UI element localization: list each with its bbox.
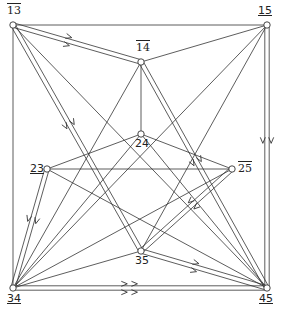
node-label-34: 34 [7, 293, 21, 304]
node-25 [229, 166, 235, 172]
node-14 [138, 59, 144, 65]
node-label-15: 15 [258, 5, 272, 16]
double-edge-25-35 [142, 171, 233, 253]
node-label-25: 25 [238, 163, 252, 174]
node-13 [10, 22, 16, 28]
double-edge-13-35 [15, 24, 143, 250]
node-label-45: 45 [259, 293, 273, 304]
edge-15-35 [141, 25, 267, 251]
node-15 [264, 22, 270, 28]
double-edge-25-35 [140, 167, 231, 249]
edge-23-45 [47, 169, 267, 288]
node-label-13: 13 [7, 5, 21, 16]
node-34 [10, 285, 16, 291]
arrow-icon [192, 260, 198, 265]
edge-34-35 [13, 251, 141, 288]
arrow-icon [35, 217, 40, 223]
arrow-heads [27, 34, 274, 295]
node-label-23: 23 [30, 163, 44, 174]
edge-24-45 [141, 134, 267, 288]
edge-24-34 [13, 134, 141, 288]
node-label-35: 35 [135, 255, 149, 266]
arrow-icon [62, 122, 67, 128]
double-edge-13-14 [12, 27, 140, 64]
node-23 [44, 166, 50, 172]
edge-14-15 [141, 25, 267, 62]
double-edge-35-45 [140, 253, 266, 290]
node-45 [264, 285, 270, 291]
double-edge-13-14 [14, 23, 142, 60]
node-label-24: 24 [135, 138, 149, 149]
double-edge-14-45 [139, 63, 265, 289]
node-label-14: 14 [136, 42, 150, 53]
arrow-icon [65, 34, 71, 39]
